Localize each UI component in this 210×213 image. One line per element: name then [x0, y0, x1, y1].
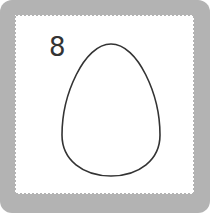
egg-outline-icon — [0, 0, 210, 213]
